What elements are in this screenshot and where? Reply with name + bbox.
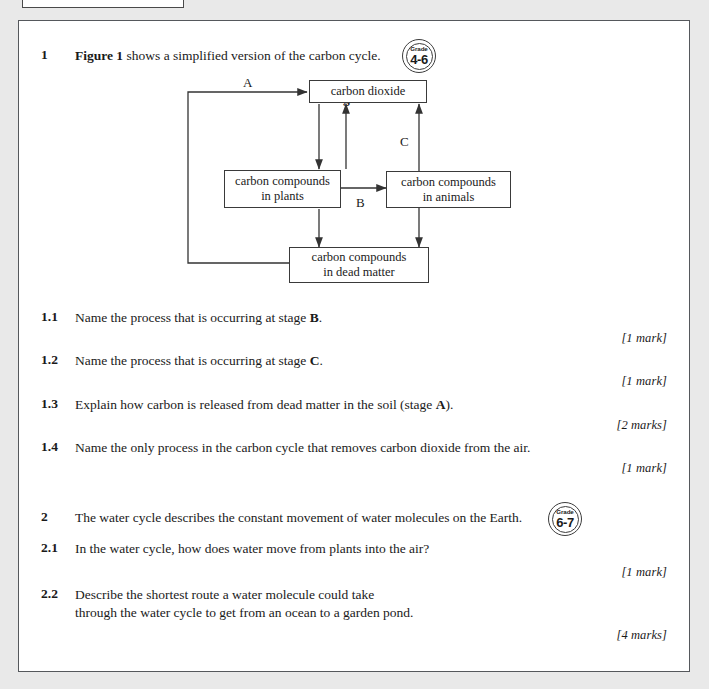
marks-1-4: [1 mark] <box>621 461 667 476</box>
node-carbon-compounds-animals: carbon compoundsin animals <box>386 171 511 208</box>
question-2-1-row: 2.1 In the water cycle, how does water m… <box>41 540 661 558</box>
question-1-text-rest: shows a simplified version of the carbon… <box>123 48 381 63</box>
marks-1-2: [1 mark] <box>621 374 667 389</box>
edge-label-c: C <box>400 134 409 150</box>
question-1-3-stage: A <box>436 397 446 412</box>
question-2-2-number: 2.2 <box>41 586 75 603</box>
question-1-4-row: 1.4 Name the only process in the carbon … <box>41 439 661 457</box>
edge-label-b: B <box>356 195 365 211</box>
node-animals-line2: in animals <box>423 190 475 204</box>
question-2-2-text: Describe the shortest route a water mole… <box>75 586 414 621</box>
marks-2-1: [1 mark] <box>621 565 667 580</box>
question-1-1-text-a: Name the process that is occurring at st… <box>75 310 310 325</box>
question-2-2-line1: Describe the shortest route a water mole… <box>75 587 374 602</box>
question-1-3-text: Explain how carbon is released from dead… <box>75 396 453 414</box>
question-1-2-text-a: Name the process that is occurring at st… <box>75 353 310 368</box>
question-1-2-stage: C <box>310 353 320 368</box>
node-carbon-compounds-plants: carbon compoundsin plants <box>224 170 341 208</box>
question-1-2-text-c: . <box>319 353 322 368</box>
question-1-row: 1 Figure 1 shows a simplified version of… <box>41 47 661 65</box>
node-plants-line1: carbon compounds <box>235 174 330 188</box>
question-1-4-number: 1.4 <box>41 439 75 456</box>
edge-label-a: A <box>243 75 252 91</box>
node-carbon-compounds-dead-matter: carbon compoundsin dead matter <box>289 247 429 283</box>
grade-badge-2: Grade 6-7 <box>548 502 582 536</box>
question-1-4-text: Name the only process in the carbon cycl… <box>75 439 530 457</box>
carbon-cycle-arrows <box>19 21 691 673</box>
grade-badge-2-range: 6-7 <box>556 516 574 529</box>
marks-2-2: [4 marks] <box>616 628 667 643</box>
question-2-2-row: 2.2 Describe the shortest route a water … <box>41 586 661 621</box>
node-carbon-dioxide: carbon dioxide <box>309 80 427 103</box>
node-animals-line1: carbon compounds <box>401 175 496 189</box>
question-1-2-text: Name the process that is occurring at st… <box>75 352 323 370</box>
grade-badge-2-word: Grade <box>556 509 573 515</box>
question-1-1-row: 1.1 Name the process that is occurring a… <box>41 309 661 327</box>
marks-1-1: [1 mark] <box>621 331 667 346</box>
question-1-3-text-a: Explain how carbon is released from dead… <box>75 397 436 412</box>
question-1-1-stage: B <box>310 310 319 325</box>
grade-badge-1: Grade 4-6 <box>402 39 436 73</box>
question-1-1-text: Name the process that is occurring at st… <box>75 309 322 327</box>
node-plants-line2: in plants <box>261 189 304 203</box>
question-2-1-number: 2.1 <box>41 540 75 557</box>
cropped-header-box <box>22 0 184 8</box>
question-2-number: 2 <box>41 509 75 526</box>
question-1-3-text-c: ). <box>445 397 453 412</box>
grade-badge-1-word: Grade <box>410 46 427 52</box>
question-2-text: The water cycle describes the constant m… <box>75 509 522 527</box>
question-1-3-number: 1.3 <box>41 396 75 413</box>
question-1-text: Figure 1 shows a simplified version of t… <box>75 47 381 65</box>
worksheet-page: 1 Figure 1 shows a simplified version of… <box>18 20 690 672</box>
grade-badge-1-range: 4-6 <box>410 53 428 66</box>
node-dead-line1: carbon compounds <box>312 250 407 264</box>
question-1-1-number: 1.1 <box>41 309 75 326</box>
question-1-3-row: 1.3 Explain how carbon is released from … <box>41 396 661 414</box>
marks-1-3: [2 marks] <box>616 418 667 433</box>
node-carbon-dioxide-label: carbon dioxide <box>331 84 406 99</box>
node-dead-line2: in dead matter <box>323 265 395 279</box>
question-1-1-text-c: . <box>319 310 322 325</box>
question-2-2-line2: through the water cycle to get from an o… <box>75 605 414 620</box>
question-1-figure-ref: Figure 1 <box>75 48 123 63</box>
question-1-2-number: 1.2 <box>41 352 75 369</box>
question-1-number: 1 <box>41 47 75 64</box>
question-1-2-row: 1.2 Name the process that is occurring a… <box>41 352 661 370</box>
question-2-1-text: In the water cycle, how does water move … <box>75 540 429 558</box>
